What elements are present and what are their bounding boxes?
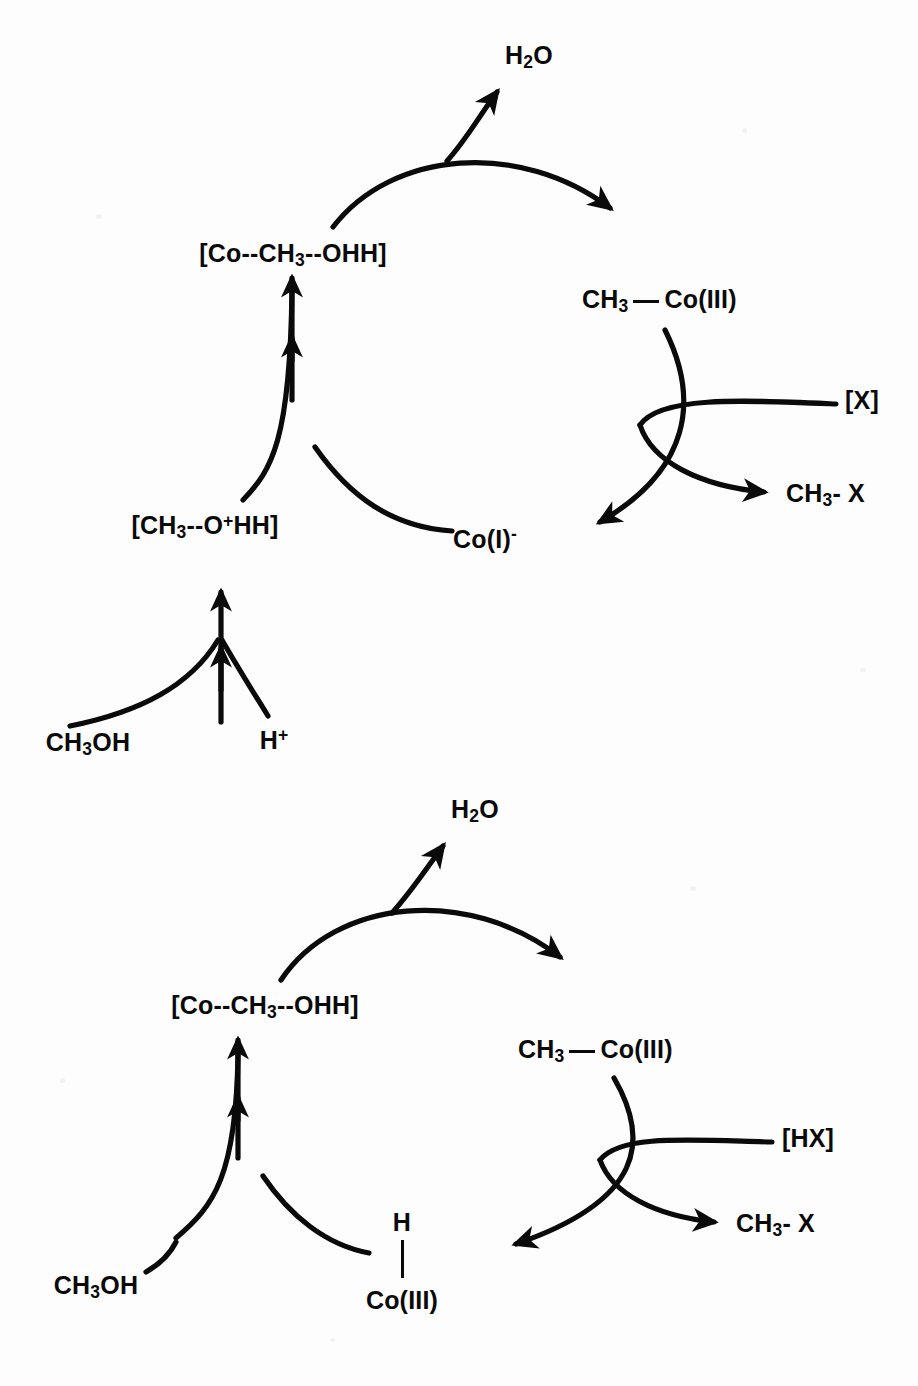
label-co-ch3-ohh-bottom: [Co--CH3--OHH] [171,993,358,1021]
arrow-outgoing-ch3x-bottom [600,1160,714,1222]
scan-speckle [860,668,866,672]
arrow-top-arc-to-methylcobalt [333,163,610,227]
label-methanol-input-top: CH3OH [46,730,130,758]
arrow-incoming-hx [600,1140,772,1160]
arrow-outgoing-ch3x-top [640,425,764,492]
scan-speckle [96,214,102,219]
arrow-incoming-x [640,401,836,425]
label-proton-input-top: H+ [260,727,289,752]
arrow-shaft-methanol-feed-top [70,640,218,726]
arrow-shaft-methanol-feed-bottom [146,1242,176,1272]
arrow-release-water-bottom [392,846,443,913]
arrow-bottom-arc-from-cobalt-anion [315,447,452,531]
bond-vertical-hydride-cobalt [401,1240,404,1278]
label-hydride-h-bottom: H [393,1210,411,1235]
label-cobalt-anion-top: Co(I)‑ [453,526,517,551]
label-ch3x-product-top: CH3- X [786,481,865,509]
arrow-release-water-top [447,92,497,161]
label-hx-reagent-bottom: [HX] [782,1126,834,1151]
bond-line-bottom [569,1050,595,1053]
methyl-group-top: CH3 [582,285,628,313]
bond-line-top [633,300,659,303]
cobalt-three-bottom: Co(III) [600,1035,672,1063]
label-methanol-input-bottom: CH3OH [54,1273,138,1301]
label-methyl-cobalt-top: CH3Co(III) [582,287,737,315]
label-co-ch3-ohh-top: [Co--CH3--OHH] [199,241,386,269]
methyl-group-bottom: CH3 [518,1035,564,1063]
scheme-page: H2O [Co--CH3--OHH] CH3Co(III) [X] CH3- X… [0,0,918,1386]
label-ch3x-product-bottom: CH3- X [736,1211,815,1239]
label-methyl-cobalt-bottom: CH3Co(III) [518,1037,673,1065]
arrow-shaft-to-co-ch3-ohh-top [243,290,292,500]
label-water-top: H2O [505,43,553,71]
arrow-top-arc-to-methylcobalt-bottom [281,910,560,980]
scan-speckle [60,1078,65,1083]
label-x-reagent-top: [X] [845,388,879,413]
arrow-right-arc-to-hydride-cobalt [516,1078,633,1244]
label-hydride-cobalt-bottom: Co(III) [366,1288,438,1313]
arrow-shaft-proton-feed-top [222,640,268,716]
reaction-arrows-canvas [0,0,918,1386]
arrow-bottom-arc-from-hydride-cobalt [263,1176,369,1253]
cobalt-three-top: Co(III) [664,285,736,313]
top-cycle-arrows [70,92,836,726]
bottom-cycle-arrows [146,846,772,1272]
arrow-shaft-to-co-ch3-ohh-bottom [176,1055,238,1238]
scan-speckle [330,1338,335,1342]
label-water-bottom: H2O [451,797,499,825]
label-methyloxonium-top: [CH3--O+HH] [131,513,278,542]
scan-speckle [742,128,747,133]
scan-speckle [690,886,696,891]
